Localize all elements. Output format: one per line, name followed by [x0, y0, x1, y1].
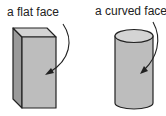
cylinder-shape [115, 30, 153, 109]
cylinder-top-face [115, 30, 153, 43]
cylinder-curved-face [115, 36, 153, 109]
shapes-diagram [0, 0, 166, 116]
cuboid-side-face [13, 28, 22, 108]
cuboid-shape [13, 28, 56, 108]
